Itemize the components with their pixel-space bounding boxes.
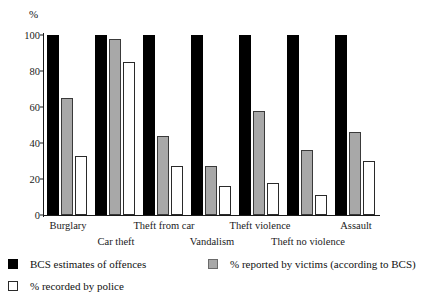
- chart-legend: BCS estimates of offences% reported by v…: [8, 258, 438, 298]
- bar: [109, 39, 121, 215]
- bar-chart-figure: % 100806040200 BurglaryCar theftTheft fr…: [0, 0, 441, 300]
- y-axis-tick-20: 20: [0, 174, 40, 185]
- bar: [143, 35, 155, 215]
- bar: [191, 35, 203, 215]
- bar: [157, 136, 169, 215]
- bar: [349, 132, 361, 215]
- x-axis-label-theft-no-violence: Theft no violence: [271, 236, 345, 247]
- bar: [95, 35, 107, 215]
- bar: [171, 166, 183, 215]
- x-axis-label-theft-from-car: Theft from car: [133, 220, 194, 231]
- plot-area: [44, 35, 380, 215]
- legend-label: BCS estimates of offences: [30, 258, 146, 270]
- bar: [253, 111, 265, 215]
- y-axis-unit-label: %: [29, 8, 38, 20]
- bar-group: [188, 35, 236, 215]
- legend-entry: BCS estimates of offences: [8, 258, 146, 270]
- legend-label: % reported by victims (according to BCS): [230, 258, 416, 270]
- bar: [61, 98, 73, 215]
- y-axis-tick-0: 0: [0, 210, 40, 221]
- x-axis-label-assault: Assault: [340, 220, 372, 231]
- y-axis-tick-80: 80: [0, 66, 40, 77]
- bar-group: [140, 35, 188, 215]
- bar: [363, 161, 375, 215]
- bar: [75, 156, 87, 215]
- y-axis-tick-100: 100: [0, 30, 40, 41]
- x-axis-label-vandalism: Vandalism: [190, 236, 234, 247]
- bar-group: [92, 35, 140, 215]
- legend-entry: % reported by victims (according to BCS): [208, 258, 416, 270]
- bar: [315, 195, 327, 215]
- bar: [123, 62, 135, 215]
- legend-swatch-gray: [208, 259, 218, 269]
- y-axis-tick-60: 60: [0, 102, 40, 113]
- y-axis-tick-40: 40: [0, 138, 40, 149]
- bar: [205, 166, 217, 215]
- bar-group: [44, 35, 92, 215]
- legend-swatch-white: [8, 281, 18, 291]
- x-axis-label-car-theft: Car theft: [97, 236, 134, 247]
- bar-group: [236, 35, 284, 215]
- legend-label: % recorded by police: [30, 280, 124, 292]
- bar: [47, 35, 59, 215]
- bar: [301, 150, 313, 215]
- x-axis-label-burglary: Burglary: [49, 220, 86, 231]
- legend-entry: % recorded by police: [8, 280, 124, 292]
- legend-swatch-black: [8, 259, 18, 269]
- bar-group: [332, 35, 380, 215]
- bar: [239, 35, 251, 215]
- bar: [287, 35, 299, 215]
- x-axis-line: [43, 215, 380, 216]
- bar: [267, 183, 279, 215]
- bar: [219, 186, 231, 215]
- bar-group: [284, 35, 332, 215]
- bar: [335, 35, 347, 215]
- x-axis-label-theft-violence: Theft violence: [230, 220, 291, 231]
